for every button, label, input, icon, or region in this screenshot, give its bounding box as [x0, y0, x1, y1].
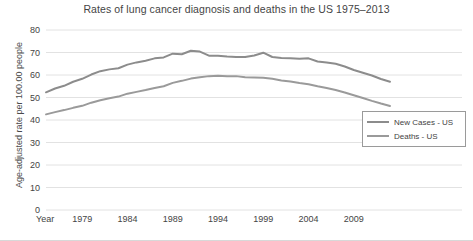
- legend-label-deaths: Deaths - US: [394, 132, 438, 141]
- legend-color-swatch-new-cases: [367, 121, 389, 124]
- legend-color-swatch-deaths: [367, 135, 389, 138]
- series-line-new-cases-us: [46, 51, 390, 93]
- chart-legend[interactable]: New Cases - US Deaths - US: [362, 111, 466, 147]
- series-lines: [46, 51, 390, 115]
- series-line-deaths-us: [46, 76, 390, 115]
- legend-label-new-cases: New Cases - US: [394, 118, 453, 127]
- lung-cancer-rates-chart: Rates of lung cancer diagnosis and death…: [0, 0, 473, 241]
- legend-item-deaths[interactable]: Deaths - US: [363, 129, 465, 143]
- legend-item-new-cases[interactable]: New Cases - US: [363, 115, 465, 129]
